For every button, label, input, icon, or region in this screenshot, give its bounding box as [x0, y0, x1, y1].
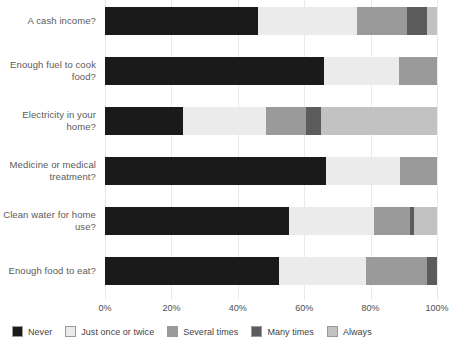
- bar-segment-never: [105, 57, 324, 85]
- chart-row: Electricity in your home?: [0, 100, 442, 150]
- bar-segment-just-once-or-twice: [279, 257, 365, 285]
- bar-segment-just-once-or-twice: [324, 57, 399, 85]
- category-label: A cash income?: [0, 15, 96, 27]
- stacked-bar: [105, 207, 437, 235]
- x-tick-label: 20%: [162, 303, 180, 313]
- bar-segment-just-once-or-twice: [183, 107, 266, 135]
- bar-segment-never: [105, 207, 289, 235]
- legend-label: Just once or twice: [81, 327, 154, 337]
- stacked-bar: [105, 157, 437, 185]
- legend-swatch-icon: [251, 326, 262, 337]
- bar-segment-just-once-or-twice: [289, 207, 374, 235]
- stacked-bar: [105, 57, 437, 85]
- legend-item: Always: [327, 326, 372, 337]
- legend-label: Several times: [183, 327, 238, 337]
- x-tick-label: 40%: [229, 303, 247, 313]
- legend-swatch-icon: [327, 326, 338, 337]
- category-label: Medicine or medical treatment?: [0, 159, 96, 182]
- bar-segment-never: [105, 7, 258, 35]
- bar-segment-several-times: [399, 57, 437, 85]
- legend-item: Several times: [167, 326, 238, 337]
- bar-segment-just-once-or-twice: [258, 7, 358, 35]
- bar-segment-always: [321, 107, 437, 135]
- x-tick-label: 0%: [98, 303, 111, 313]
- x-tick-label: 100%: [425, 303, 448, 313]
- chart-row: Enough food to eat?: [0, 250, 442, 300]
- bar-segment-several-times: [400, 157, 437, 185]
- chart-row: Clean water for home use?: [0, 200, 442, 250]
- chart-row: Medicine or medical treatment?: [0, 150, 442, 200]
- x-axis: 0%20%40%60%80%100%: [105, 303, 437, 317]
- x-tick-label: 80%: [362, 303, 380, 313]
- bar-segment-several-times: [374, 207, 411, 235]
- legend-item: Never: [12, 326, 52, 337]
- legend-label: Always: [343, 327, 372, 337]
- stacked-bar: [105, 107, 437, 135]
- legend-swatch-icon: [167, 326, 178, 337]
- bar-segment-several-times: [357, 7, 407, 35]
- stacked-bar: [105, 7, 437, 35]
- bar-segment-many-times: [407, 7, 427, 35]
- legend-swatch-icon: [12, 326, 23, 337]
- legend-item: Just once or twice: [65, 326, 154, 337]
- bar-segment-never: [105, 257, 279, 285]
- x-tick-label: 60%: [295, 303, 313, 313]
- stacked-bar: [105, 257, 437, 285]
- category-label: Electricity in your home?: [0, 109, 96, 132]
- category-label: Enough food to eat?: [0, 265, 96, 277]
- bar-segment-several-times: [266, 107, 306, 135]
- chart-row: Enough fuel to cook food?: [0, 50, 442, 100]
- bar-segment-always: [427, 7, 437, 35]
- category-label: Enough fuel to cook food?: [0, 59, 96, 82]
- legend-label: Never: [28, 327, 52, 337]
- chart-legend: NeverJust once or twiceSeveral timesMany…: [12, 326, 385, 337]
- bar-segment-several-times: [366, 257, 427, 285]
- chart-row: A cash income?: [0, 0, 442, 50]
- bar-segment-never: [105, 157, 326, 185]
- category-label: Clean water for home use?: [0, 209, 96, 232]
- legend-swatch-icon: [65, 326, 76, 337]
- bar-segment-just-once-or-twice: [326, 157, 401, 185]
- bar-segment-never: [105, 107, 183, 135]
- bar-segment-many-times: [306, 107, 321, 135]
- bar-segment-many-times: [427, 257, 437, 285]
- legend-item: Many times: [251, 326, 314, 337]
- legend-label: Many times: [267, 327, 314, 337]
- bar-segment-always: [414, 207, 437, 235]
